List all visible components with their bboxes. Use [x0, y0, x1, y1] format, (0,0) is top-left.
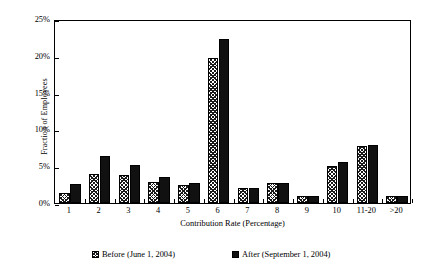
y-axis-tick-labels: 0%5%10%15%20%25%: [12, 0, 50, 280]
x-axis-tick-mark: [412, 199, 413, 203]
x-axis-tick-label: 9: [305, 206, 309, 216]
x-axis-tick-mark: [144, 199, 145, 203]
bar-before: [208, 58, 219, 203]
bar-before: [178, 185, 189, 203]
x-axis-tick-label: >20: [390, 206, 403, 216]
x-axis-tick-label: 2: [97, 206, 101, 216]
bar-group: [89, 21, 111, 203]
bar-group: [208, 21, 230, 203]
x-axis-tick-labels: 1234567891011-20>20: [54, 206, 411, 220]
x-axis-tick-mark: [382, 199, 383, 203]
chart-legend: Before (June 1, 2004)After (September 1,…: [54, 250, 411, 266]
y-axis-tick-label: 15%: [16, 89, 50, 97]
bar-after: [338, 162, 349, 203]
bar-before: [148, 182, 159, 203]
bar-before: [297, 196, 308, 203]
bar-group: [59, 21, 81, 203]
x-axis-tick-mark: [234, 199, 235, 203]
legend-label: Before (June 1, 2004): [102, 250, 175, 259]
x-axis-tick-mark: [293, 199, 294, 203]
bar-before: [327, 166, 338, 203]
bar-before: [357, 146, 368, 203]
x-axis-tick-label: 11-20: [357, 206, 376, 216]
x-axis-tick-label: 10: [332, 206, 340, 216]
x-axis-tick-mark: [115, 199, 116, 203]
bar-group: [357, 21, 379, 203]
x-axis-tick-label: 7: [245, 206, 249, 216]
bar-after: [308, 196, 319, 203]
bar-group: [119, 21, 141, 203]
bar-group: [386, 21, 408, 203]
bar-group: [297, 21, 319, 203]
bar-after: [278, 183, 289, 203]
y-axis-tick-label: 5%: [16, 163, 50, 171]
legend-swatch-after-icon: [232, 251, 239, 258]
bar-after: [130, 165, 141, 203]
bar-before: [59, 193, 70, 203]
x-axis-tick-label: 5: [186, 206, 190, 216]
bar-chart: Fraction of Employees 0%5%10%15%20%25% 1…: [0, 0, 425, 280]
x-axis-tick-label: 4: [156, 206, 160, 216]
x-axis-tick-label: 3: [126, 206, 130, 216]
bar-before: [119, 175, 130, 203]
legend-entry: After (September 1, 2004): [232, 250, 330, 259]
bar-after: [397, 196, 408, 203]
bar-before: [386, 196, 397, 203]
bar-group: [148, 21, 170, 203]
bar-before: [267, 183, 278, 203]
x-axis-tick-mark: [85, 199, 86, 203]
bar-after: [70, 184, 81, 203]
legend-entry: Before (June 1, 2004): [92, 250, 175, 259]
bar-after: [189, 183, 200, 203]
bar-after: [100, 156, 111, 203]
y-axis-tick-label: 25%: [16, 16, 50, 24]
bar-group: [327, 21, 349, 203]
x-axis-tick-mark: [263, 199, 264, 203]
x-axis-tick-label: 8: [275, 206, 279, 216]
bar-group: [238, 21, 260, 203]
x-axis-tick-mark: [353, 199, 354, 203]
x-axis-tick-mark: [204, 199, 205, 203]
x-axis-tick-mark: [323, 199, 324, 203]
x-axis-title: Contribution Rate (Percentage): [54, 219, 411, 228]
bar-after: [159, 177, 170, 203]
bar-after: [368, 145, 379, 203]
x-axis-tick-mark: [174, 199, 175, 203]
y-axis-tick-label: 0%: [16, 200, 50, 208]
bar-group: [267, 21, 289, 203]
plot-area: [55, 21, 410, 203]
bar-group: [178, 21, 200, 203]
plot-frame: [54, 20, 411, 204]
bar-after: [219, 39, 230, 203]
bar-before: [238, 188, 249, 203]
legend-label: After (September 1, 2004): [242, 250, 330, 259]
x-axis-tick-label: 1: [67, 206, 71, 216]
x-axis-tick-label: 6: [216, 206, 220, 216]
bar-before: [89, 174, 100, 203]
y-axis-tick-label: 20%: [16, 53, 50, 61]
y-axis-tick-label: 10%: [16, 126, 50, 134]
bar-after: [249, 188, 260, 203]
legend-swatch-before-icon: [92, 251, 99, 258]
